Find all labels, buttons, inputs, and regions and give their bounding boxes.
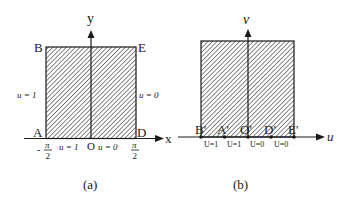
- fraction-numerator: π: [132, 140, 137, 150]
- y-axis-label: y: [87, 11, 94, 26]
- v-axis-label: v: [243, 12, 250, 27]
- u-axis-label: u: [327, 129, 334, 144]
- bottom-left-label: u = 1: [59, 142, 79, 152]
- u-axis-arrow-icon: [316, 134, 325, 141]
- bottom-right-label: u = 0: [98, 142, 118, 152]
- x-axis-arrow-icon: [155, 135, 164, 142]
- origin-label: O: [87, 140, 95, 152]
- tick-pi-over-2: π 2: [131, 140, 139, 161]
- figure-a: x y B E A D O u = 1 u = 0 u = 1 u = 0 - …: [17, 11, 172, 192]
- fraction-denominator: 2: [133, 151, 138, 161]
- segment-label: U=1: [227, 140, 241, 149]
- y-axis-arrow-icon: [88, 30, 95, 38]
- caption-a: (a): [83, 177, 97, 192]
- fraction-denominator: 2: [46, 151, 51, 161]
- label-o-prime: O': [240, 122, 252, 137]
- minus-sign: -: [37, 144, 40, 155]
- caption-b: (b): [233, 177, 248, 192]
- segment-label: U=0: [274, 140, 288, 149]
- segment-label: U=0: [250, 140, 264, 149]
- boundary-right-label: u = 0: [139, 90, 159, 100]
- conformal-map-diagram: x y B E A D O u = 1 u = 0 u = 1 u = 0 - …: [0, 0, 346, 200]
- label-e-prime: E': [288, 122, 298, 137]
- v-axis-arrow-icon: [245, 29, 252, 37]
- vertex-e: E: [138, 40, 146, 55]
- boundary-left-label: u = 1: [17, 90, 37, 100]
- segment-label: U=1: [204, 140, 218, 149]
- label-d-prime: D': [264, 122, 276, 137]
- figure-b: u v B' A' O' D' E' U=1 U=1 U=0 U=0 (b): [178, 12, 334, 192]
- label-a-prime: A': [217, 122, 229, 137]
- x-axis-label: x: [165, 131, 172, 146]
- vertex-b: B: [34, 40, 43, 55]
- fraction-numerator: π: [45, 140, 50, 150]
- tick-neg-pi-over-2: - π 2: [37, 140, 52, 161]
- label-b-prime: B': [195, 122, 206, 137]
- vertex-a: A: [33, 125, 43, 140]
- vertex-d: D: [137, 125, 146, 140]
